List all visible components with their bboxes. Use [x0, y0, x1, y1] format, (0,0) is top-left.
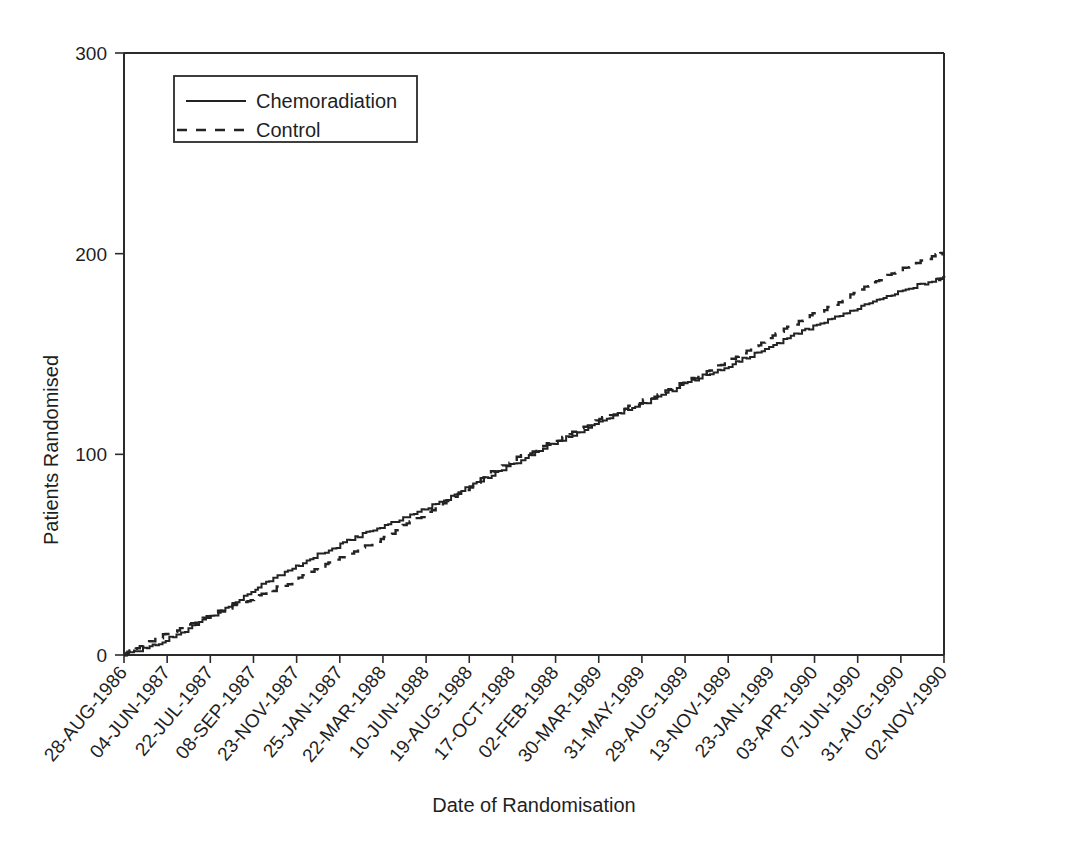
- series-group: [124, 253, 944, 655]
- x-tick-group: [124, 655, 944, 663]
- chart-canvas: 0100200300 28-AUG-198604-JUN-198722-JUL-…: [0, 0, 1083, 841]
- y-tick-group: [115, 53, 124, 655]
- legend-label-control: Control: [256, 119, 320, 141]
- y-tick-label-group: 0100200300: [75, 43, 107, 666]
- chart-figure: 0100200300 28-AUG-198604-JUN-198722-JUL-…: [0, 0, 1083, 841]
- y-tick-label: 100: [75, 444, 107, 465]
- y-tick-label: 200: [75, 244, 107, 265]
- x-tick-label-group: 28-AUG-198604-JUN-198722-JUL-198708-SEP-…: [40, 662, 951, 766]
- y-axis-title: Patients Randomised: [40, 355, 62, 545]
- series-chemoradiation-line: [124, 277, 944, 655]
- y-tick-label: 0: [96, 645, 107, 666]
- y-tick-label: 300: [75, 43, 107, 64]
- plot-axes: [124, 53, 944, 655]
- x-axis-title: Date of Randomisation: [432, 794, 635, 816]
- chart-legend: Chemoradiation Control: [174, 76, 417, 142]
- legend-label-chemoradiation: Chemoradiation: [256, 90, 397, 112]
